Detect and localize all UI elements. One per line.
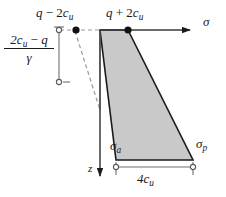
fraction-denominator: γ [4,50,54,64]
diagram-canvas [0,0,226,197]
earth-pressure-diagram: q − 2cu q + 2cu σ 2cu − q γ z σa σp 4cu [0,0,226,197]
label-q-plus-operator: + 2 [113,5,133,20]
fraction-numerator-subscript: u [23,39,28,49]
label-q-plus-2cu: q + 2cu [106,6,143,19]
tension-pressure-point-marker [72,26,79,33]
width-dimension-left-marker [113,164,118,169]
label-q-plus-subscript: u [139,12,144,22]
passive-pressure-point-marker [124,26,131,33]
label-q-minus-operator: − 2 [43,5,63,20]
tension-crack-dashed-line [75,31,100,110]
fraction-numerator-symbol: c [17,32,23,47]
fraction-numerator-tail: q [41,32,48,47]
fraction-numerator-operator: − [27,32,41,47]
label-q-minus-symbol: c [63,5,69,20]
label-q-plus-symbol: c [133,5,139,20]
label-q-minus-2cu: q − 2cu [36,6,73,19]
label-width-subscript: u [149,178,154,188]
label-sigma-p-subscript: p [202,143,207,153]
label-width-dimension: 4cu [137,172,154,185]
label-depth-fraction-numerator: 2cu − q [4,33,54,47]
label-q-minus-subscript: u [69,12,74,22]
label-depth-fraction: 2cu − q γ [4,33,54,64]
depth-dimension-top-marker [56,27,61,32]
label-sigma-p: σp [196,137,207,150]
label-sigma-axis: σ [203,15,209,28]
fraction-bar [4,48,54,49]
width-dimension-right-marker [190,164,195,169]
label-z-axis: z [88,163,92,174]
label-sigma-a-subscript: a [116,145,121,155]
label-sigma-a: σa [110,139,121,152]
depth-dimension-bottom-marker [56,79,61,84]
